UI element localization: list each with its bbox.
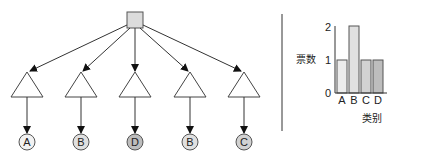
vote-bar-chart: 票数 0 1 2 A B C D 类别 bbox=[296, 21, 387, 124]
leaf-label-4: B bbox=[186, 136, 193, 148]
bar-C bbox=[361, 60, 371, 93]
xtick-A: A bbox=[338, 94, 346, 106]
leaf-label-5: C bbox=[240, 136, 248, 148]
leaf-label-1: A bbox=[23, 136, 31, 148]
tree-icon-2 bbox=[65, 72, 97, 97]
root-node bbox=[127, 12, 143, 28]
leaf-label-2: B bbox=[77, 136, 84, 148]
ytick-0: 0 bbox=[325, 87, 331, 99]
bar-A bbox=[337, 60, 347, 93]
leaf-edges bbox=[27, 97, 244, 133]
chart-ylabel: 票数 bbox=[296, 53, 316, 65]
ytick-2: 2 bbox=[325, 21, 331, 33]
tree-icon-1 bbox=[11, 72, 43, 97]
voting-diagram: A B D B C 票数 0 1 2 A B C D 类别 bbox=[0, 0, 424, 161]
xtick-B: B bbox=[350, 94, 357, 106]
leaf-label-3: D bbox=[131, 136, 139, 148]
bar-D bbox=[373, 60, 383, 93]
xtick-C: C bbox=[362, 94, 370, 106]
tree-icon-4 bbox=[174, 72, 206, 97]
ytick-1: 1 bbox=[325, 54, 331, 66]
xtick-D: D bbox=[374, 94, 382, 106]
tree-icon-5 bbox=[228, 72, 260, 97]
tree-icon-3 bbox=[119, 72, 151, 97]
root-edges bbox=[30, 25, 241, 71]
bar-B bbox=[349, 26, 359, 93]
chart-xlabel: 类别 bbox=[362, 112, 382, 124]
tree-nodes bbox=[11, 72, 260, 97]
